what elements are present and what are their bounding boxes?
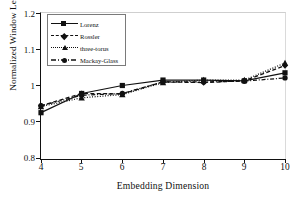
- legend-label: three-torus: [78, 44, 109, 53]
- x-tick-label-8: 8: [191, 162, 217, 172]
- x-tick-label-6: 6: [109, 162, 135, 172]
- legend-item-mackay-glass: Mackay-Glass: [51, 54, 123, 66]
- x-tick-label-9: 9: [231, 162, 257, 172]
- x-axis-title: Embedding Dimension: [40, 180, 286, 191]
- x-tick-label-5: 5: [68, 162, 94, 172]
- series-rossler: [38, 62, 288, 108]
- legend-swatch-dotted-triangle: [51, 43, 78, 53]
- legend-label: Rossler: [78, 32, 100, 41]
- legend-swatch-dashdot-circle: [51, 55, 78, 65]
- legend-item-rossler: Rossler: [51, 30, 123, 42]
- x-tick-label-7: 7: [150, 162, 176, 172]
- series-mackay-glass: [38, 75, 287, 108]
- legend-item-lorenz: Lorenz: [51, 18, 123, 30]
- series-lorenz: [38, 70, 287, 115]
- chart-figure: Normalized Window Length 1.2 1.1 1 0.9 0…: [0, 0, 292, 199]
- legend-swatch-solid-square: [51, 19, 78, 29]
- legend-label: Mackay-Glass: [78, 56, 118, 65]
- x-tick-label-4: 4: [28, 162, 54, 172]
- legend-item-three-torus: three-torus: [51, 42, 123, 54]
- chart-legend: Lorenz Rossler three-torus Mackay-Gl: [47, 14, 126, 66]
- legend-label: Lorenz: [78, 20, 99, 29]
- legend-swatch-dashed-diamond: [51, 31, 78, 41]
- x-tick-label-10: 10: [272, 162, 292, 172]
